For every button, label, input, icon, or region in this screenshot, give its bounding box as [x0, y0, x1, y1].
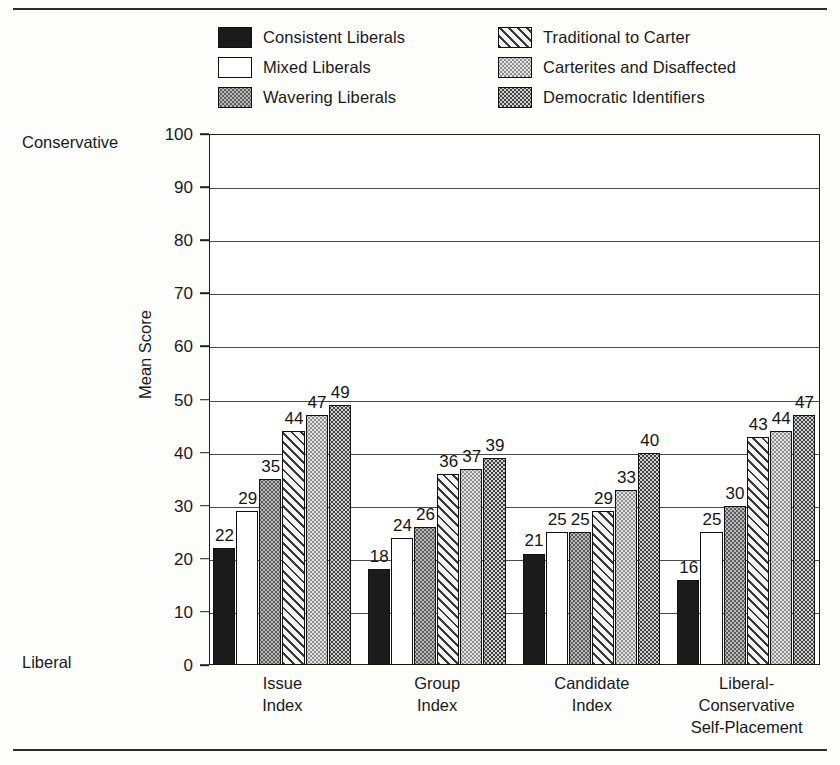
- bar-value-label: 35: [261, 458, 280, 475]
- y-axis-tick-label: 30: [174, 497, 193, 514]
- y-axis-tick-label: 90: [174, 179, 193, 196]
- bar-value-label: 25: [548, 511, 567, 528]
- x-axis-category-label-line: Conservative: [691, 695, 803, 717]
- bar: [391, 538, 413, 665]
- bar: [638, 453, 660, 665]
- legend-item-label: Carterites and Disaffected: [543, 59, 736, 76]
- bar: [700, 532, 722, 665]
- y-axis-tick-label: 80: [174, 232, 193, 249]
- y-axis-tick-mark: [200, 133, 209, 135]
- bar: [414, 527, 436, 665]
- bar-value-label: 25: [702, 511, 721, 528]
- bar: [306, 415, 328, 665]
- bar-value-label: 16: [679, 559, 698, 576]
- x-axis-category-label-line: Index: [554, 695, 629, 717]
- legend-item: Democratic Identifiers: [498, 82, 788, 112]
- legend-item: Wavering Liberals: [218, 82, 508, 112]
- bar-value-label: 25: [571, 511, 590, 528]
- chart-legend: Consistent LiberalsMixed LiberalsWaverin…: [218, 22, 818, 114]
- bar-value-label: 47: [795, 394, 814, 411]
- bar: [569, 532, 591, 665]
- bar-value-label: 21: [525, 532, 544, 549]
- bar-group: 212525293340: [523, 134, 662, 665]
- y-axis-tick-mark: [200, 399, 209, 401]
- bar-value-label: 18: [370, 548, 389, 565]
- bar-value-label: 29: [238, 490, 257, 507]
- bar: [677, 580, 699, 665]
- bar-value-label: 47: [308, 394, 327, 411]
- bar-value-label: 33: [617, 469, 636, 486]
- y-axis-tick-label: 40: [174, 444, 193, 461]
- x-axis-category-label: GroupIndex: [414, 673, 460, 717]
- y-axis-tick-mark: [200, 186, 209, 188]
- y-axis-tick-label: 100: [165, 126, 193, 143]
- bar-value-label: 44: [772, 410, 791, 427]
- legend-item: Traditional to Carter: [498, 22, 788, 52]
- x-axis-category-labels: IssueIndexGroupIndexCandidateIndexLibera…: [209, 673, 820, 761]
- bar-value-label: 43: [749, 416, 768, 433]
- y-axis-tick-mark: [200, 293, 209, 295]
- x-axis-category-label: IssueIndex: [262, 673, 302, 717]
- legend-item: Mixed Liberals: [218, 52, 508, 82]
- x-axis-category-label: CandidateIndex: [554, 673, 629, 717]
- bar-value-label: 22: [215, 527, 234, 544]
- y-axis-tick-mark: [200, 452, 209, 454]
- plot-area: 2229354447491824263637392125252933401625…: [209, 134, 820, 665]
- bar-group: 162530434447: [677, 134, 816, 665]
- x-axis-category-label-line: Self-Placement: [691, 717, 803, 739]
- bar-value-label: 24: [393, 517, 412, 534]
- legend-column-left: Consistent LiberalsMixed LiberalsWaverin…: [218, 22, 508, 112]
- y-axis-tick-label: 20: [174, 550, 193, 567]
- x-axis-category-label-line: Group: [414, 673, 460, 695]
- bar-value-label: 40: [640, 432, 659, 449]
- legend-item-label: Traditional to Carter: [543, 29, 690, 46]
- y-axis-tick-label: 60: [174, 338, 193, 355]
- bar-value-label: 44: [284, 410, 303, 427]
- bar: [770, 431, 792, 665]
- bar-value-label: 37: [462, 448, 481, 465]
- legend-item-label: Democratic Identifiers: [543, 89, 705, 106]
- bar: [724, 506, 746, 665]
- y-axis-tick-label: 0: [184, 657, 193, 674]
- x-axis-category-label-line: Candidate: [554, 673, 629, 695]
- y-axis-tick-label: 10: [174, 603, 193, 620]
- x-axis-category-label-line: Issue: [262, 673, 302, 695]
- legend-swatch-hatch-icon: [498, 27, 532, 48]
- bars-layer: 2229354447491824263637392125252933401625…: [209, 134, 820, 665]
- bar: [259, 479, 281, 665]
- y-axis-tick-mark: [200, 664, 209, 666]
- bar: [747, 437, 769, 665]
- x-axis-category-label: Liberal-ConservativeSelf-Placement: [691, 673, 803, 738]
- legend-item-label: Consistent Liberals: [263, 29, 405, 46]
- bar-group: 222935444749: [213, 134, 352, 665]
- legend-item: Consistent Liberals: [218, 22, 508, 52]
- bar-value-label: 36: [439, 453, 458, 470]
- bar-value-label: 39: [485, 437, 504, 454]
- x-axis-category-label-line: Index: [262, 695, 302, 717]
- bar-value-label: 26: [416, 506, 435, 523]
- y-axis-tick-mark: [200, 611, 209, 613]
- bar: [236, 511, 258, 665]
- legend-item-label: Mixed Liberals: [263, 59, 371, 76]
- bar-value-label: 30: [726, 485, 745, 502]
- y-axis-tick-mark: [200, 346, 209, 348]
- legend-swatch-mid-dot-icon: [218, 87, 252, 108]
- x-axis-category-label-line: Index: [414, 695, 460, 717]
- bar: [592, 511, 614, 665]
- bar: [213, 548, 235, 665]
- y-axis-tick-mark: [200, 505, 209, 507]
- bar: [368, 569, 390, 665]
- legend-swatch-white-icon: [218, 57, 252, 78]
- legend-item-label: Wavering Liberals: [263, 89, 396, 106]
- bar: [282, 431, 304, 665]
- bar-value-label: 29: [594, 490, 613, 507]
- y-axis-tick-mark: [200, 239, 209, 241]
- bar: [523, 554, 545, 666]
- bar-value-label: 49: [331, 384, 350, 401]
- bar: [615, 490, 637, 665]
- bar: [793, 415, 815, 665]
- y-axis-tick-label: 70: [174, 285, 193, 302]
- legend-column-right: Traditional to CarterCarterites and Disa…: [498, 22, 788, 112]
- top-divider-rule: [13, 8, 827, 10]
- y-axis-tick-label: 50: [174, 391, 193, 408]
